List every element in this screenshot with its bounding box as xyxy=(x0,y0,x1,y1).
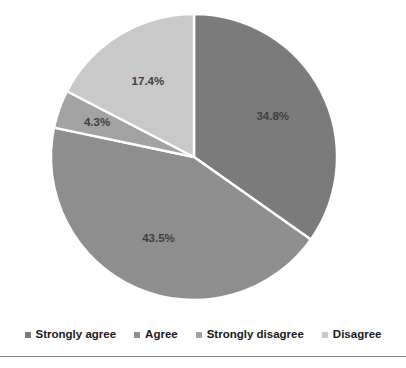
legend-swatch-icon xyxy=(322,332,328,338)
legend-item-label: Agree xyxy=(145,329,178,341)
pie-plot-area: 34.8%43.5%4.3%17.4% xyxy=(0,0,406,312)
legend-item-label: Strongly agree xyxy=(36,329,117,341)
bottom-divider xyxy=(0,356,406,357)
legend-item[interactable]: Agree xyxy=(134,329,178,341)
legend-item[interactable]: Strongly disagree xyxy=(196,329,304,341)
legend-item[interactable]: Disagree xyxy=(322,329,382,341)
pie-svg: 34.8%43.5%4.3%17.4% xyxy=(0,0,406,312)
legend-item-label: Strongly disagree xyxy=(207,329,304,341)
pie-chart-figure: 34.8%43.5%4.3%17.4% Strongly agreeAgreeS… xyxy=(0,0,406,368)
legend-item[interactable]: Strongly agree xyxy=(25,329,117,341)
pie-slice-value-label: 34.8% xyxy=(256,110,289,122)
legend-swatch-icon xyxy=(25,332,31,338)
pie-slice-value-label: 4.3% xyxy=(84,116,110,128)
pie-slice-value-label: 43.5% xyxy=(142,232,175,244)
pie-slices-group xyxy=(51,14,337,300)
chart-legend: Strongly agreeAgreeStrongly disagreeDisa… xyxy=(0,324,406,346)
legend-item-label: Disagree xyxy=(333,329,382,341)
legend-swatch-icon xyxy=(196,332,202,338)
legend-swatch-icon xyxy=(134,332,140,338)
pie-slice-value-label: 17.4% xyxy=(132,75,165,87)
